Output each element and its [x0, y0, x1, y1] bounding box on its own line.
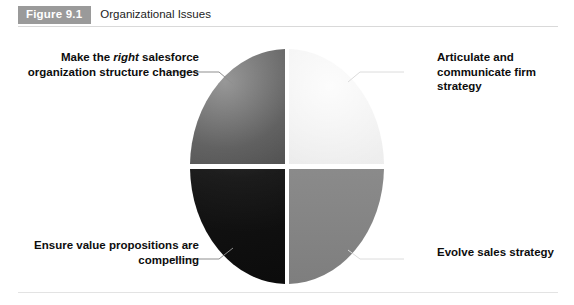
- label-top-left-emphasis: right: [113, 51, 139, 63]
- figure-container: Figure 9.1 Organizational Issues Make th…: [0, 0, 574, 305]
- quadrant-top-right: [289, 49, 384, 164]
- quadrant-bottom-left: [190, 169, 285, 284]
- label-top-left-pre: Make the: [61, 51, 113, 63]
- quadrant-bottom-right-fill: [289, 169, 384, 284]
- label-bottom-left: Ensure value propositions are compelling: [14, 238, 199, 267]
- quadrant-circle: [190, 49, 384, 284]
- quadrant-top-left: [190, 49, 285, 164]
- label-top-right: Articulate and communicate firm strategy: [437, 50, 562, 94]
- header-divider: [18, 26, 558, 27]
- figure-header: Figure 9.1 Organizational Issues: [18, 6, 558, 24]
- figure-title: Organizational Issues: [91, 6, 211, 24]
- label-bottom-right: Evolve sales strategy: [437, 245, 562, 260]
- quadrant-bottom-left-fill: [190, 169, 285, 284]
- footer-divider: [18, 292, 558, 293]
- label-top-left: Make the right salesforce organization s…: [14, 50, 199, 79]
- figure-number-badge: Figure 9.1: [18, 6, 91, 24]
- quadrant-top-right-fill: [289, 49, 384, 164]
- quadrant-top-left-fill: [190, 49, 285, 164]
- quadrant-bottom-right: [289, 169, 384, 284]
